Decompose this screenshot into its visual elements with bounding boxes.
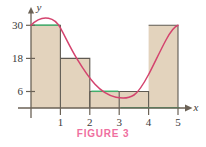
bar-rect-1 — [60, 58, 89, 108]
bar-rect-0 — [31, 25, 60, 108]
x-tick-label-4: 4 — [146, 116, 152, 128]
bar-rect-2 — [90, 92, 119, 109]
riemann-sum-plot: 1 2 3 4 5 6 18 30 x y — [0, 0, 206, 147]
x-tick-label-1: 1 — [58, 116, 64, 128]
figure-container: 1 2 3 4 5 6 18 30 x y FIGURE 3 — [0, 0, 206, 147]
x-tick-label-3: 3 — [116, 116, 122, 128]
x-axis-label: x — [193, 101, 199, 113]
bar-rect-3 — [119, 92, 148, 109]
x-tick-label-2: 2 — [87, 116, 93, 128]
y-axis-label: y — [36, 1, 42, 13]
figure-caption: FIGURE 3 — [0, 128, 206, 139]
riemann-rectangles-fill — [31, 25, 178, 108]
y-tick-label-30: 30 — [12, 19, 24, 31]
y-axis-arrow-icon — [28, 7, 34, 14]
x-axis-arrow-icon — [185, 105, 193, 112]
x-axis-ticks — [60, 108, 178, 115]
y-tick-label-6: 6 — [18, 85, 24, 97]
y-tick-label-18: 18 — [12, 52, 24, 64]
x-tick-label-5: 5 — [175, 116, 181, 128]
